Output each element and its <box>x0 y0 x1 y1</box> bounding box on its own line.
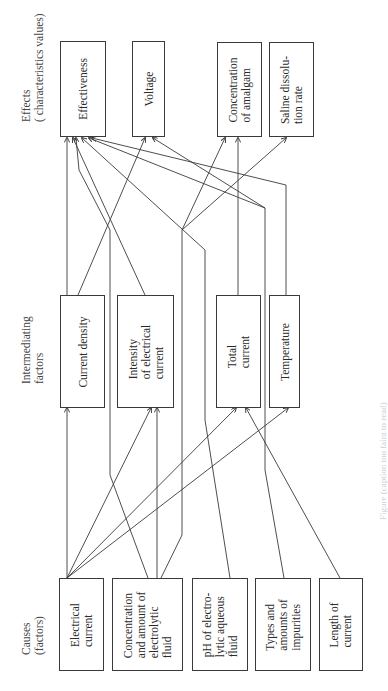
effect-voltage: Voltage <box>132 41 165 137</box>
effects-column-label: Effects ( characteristics values) <box>20 13 46 122</box>
cause-concentration-electrolytic: Concentration and amount of electrolytic… <box>112 578 183 671</box>
intermediating-column-label: Intermediating factors <box>20 316 46 384</box>
intermediate-current-density: Current density <box>60 295 105 408</box>
effect-effectiveness: Effectiveness <box>60 41 106 137</box>
cause-ph-fluid: pH of electro- lytic aqueous fluid <box>192 578 248 671</box>
intermediate-temperature: Temperature <box>269 295 300 408</box>
intermediate-intensity-current: Intensity of electrical current <box>117 295 174 408</box>
cause-impurities: Types and amounts of impurities <box>255 578 311 671</box>
cause-electrical-current: Electrical current <box>59 578 104 671</box>
cause-length-current: Length of current <box>319 578 363 671</box>
causes-column-label: Causes (factors) <box>20 616 46 655</box>
figure-caption: Figure (caption too faint to read) <box>378 402 388 520</box>
intermediate-total-current: Total current <box>216 295 261 408</box>
effect-saline-dissolution: Saline dissolu- tion rate <box>269 42 314 137</box>
effect-concentration-amalgam: Concentration of amalgam <box>217 42 262 137</box>
